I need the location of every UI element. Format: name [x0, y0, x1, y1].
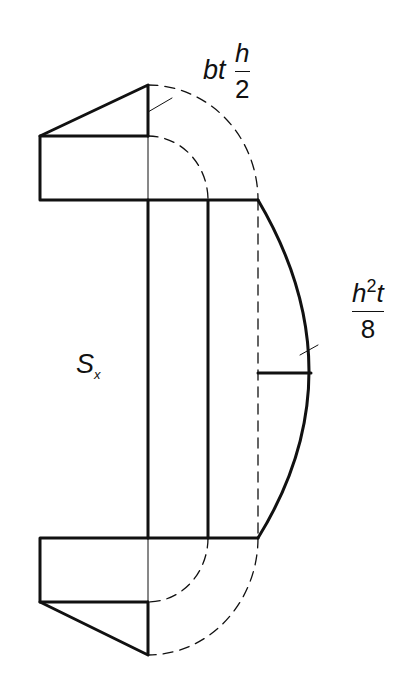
bottom-flange-triangle	[40, 602, 148, 655]
section-modulus-subscript: x	[94, 367, 101, 382]
flange-moment-denominator: 2	[235, 74, 249, 105]
web-moment-numerator: h2t	[352, 276, 384, 309]
section-modulus-symbol: S	[76, 349, 94, 379]
web-moment-t: t	[376, 278, 383, 308]
top-flange-triangle	[40, 85, 148, 136]
web-moment-denominator: 8	[361, 314, 375, 345]
bottom-flange-rect	[40, 538, 258, 602]
flange-moment-numerator: h	[235, 38, 249, 69]
top-flange-rect	[40, 136, 258, 200]
web-moment-h: h	[352, 278, 366, 308]
web-moment-exp: 2	[366, 276, 376, 296]
bottom-outer-arc	[148, 538, 258, 655]
web-parabola	[258, 200, 309, 538]
web-moment-fraction: h2t 8	[352, 276, 384, 345]
section-modulus-label: Sx	[76, 349, 101, 382]
top-inner-arc	[148, 136, 208, 200]
flange-moment-label: bt h 2	[203, 38, 250, 105]
flange-moment-fraction: h 2	[235, 38, 249, 105]
flange-moment-prefix: bt	[203, 55, 226, 85]
web-moment-label: h2t 8	[352, 276, 384, 345]
bottom-inner-arc	[148, 538, 208, 602]
